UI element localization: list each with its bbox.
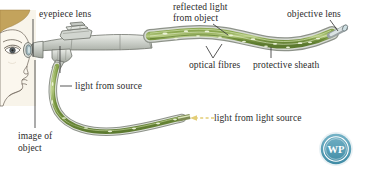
diagram-canvas: eyepiece lens reflected light from objec… bbox=[0, 0, 365, 170]
wp-watermark-badge: WP bbox=[318, 131, 354, 167]
insertion-tube-fibre-cable bbox=[150, 24, 349, 48]
label-image-of-object-line1: image of bbox=[18, 131, 52, 142]
label-image-of-object-line2: object bbox=[18, 143, 42, 154]
label-objective-lens: objective lens bbox=[287, 9, 341, 20]
endoscope-illustration bbox=[0, 0, 365, 170]
patient-head-illustration bbox=[0, 10, 36, 106]
label-light-from-source: light from source bbox=[75, 81, 142, 92]
label-light-from-light-source: light from light source bbox=[214, 113, 302, 124]
light-guide-cable bbox=[51, 66, 190, 132]
label-eyepiece-lens: eyepiece lens bbox=[39, 9, 91, 20]
label-reflected-light-line2: from object bbox=[173, 13, 218, 24]
wp-watermark-text: WP bbox=[328, 144, 346, 155]
control-knob bbox=[60, 22, 92, 40]
light-input-arrow bbox=[190, 115, 214, 120]
label-reflected-light-line1: reflected light bbox=[173, 2, 228, 13]
label-optical-fibres: optical fibres bbox=[189, 60, 240, 71]
label-protective-sheath: protective sheath bbox=[253, 60, 319, 71]
endoscope-control-head bbox=[24, 22, 153, 69]
